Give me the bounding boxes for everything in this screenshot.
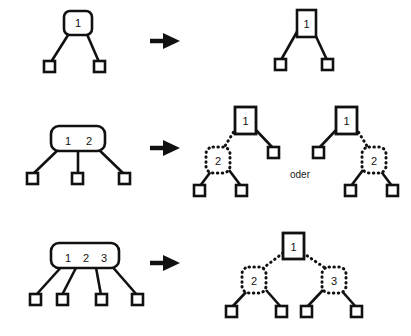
row-3-root-key: 1 bbox=[290, 241, 296, 253]
row-3-left-leaf-2 bbox=[57, 294, 68, 305]
row-2-left-group-node bbox=[51, 126, 105, 151]
row-2-left-tree: 1 2 bbox=[27, 126, 130, 184]
row-3-leaf-1 bbox=[226, 306, 237, 317]
row-2-b-leaf-3 bbox=[387, 185, 398, 196]
row-2-a-leaf-2 bbox=[236, 185, 247, 196]
tree-transformation-diagram: 1 1 1 2 bbox=[0, 0, 411, 336]
row-3-left-key-2: 2 bbox=[83, 252, 89, 264]
row-3-left-key-1: 1 bbox=[65, 252, 71, 264]
row-3-left-leaf-4 bbox=[132, 294, 143, 305]
row-2-a-edge-inner-leaf-2 bbox=[229, 170, 241, 186]
row-2-b-root-key: 1 bbox=[343, 115, 349, 127]
diagram-canvas: 1 1 1 2 bbox=[0, 0, 411, 336]
row-3-left-tree: 1 2 3 bbox=[30, 243, 143, 305]
row-1-left-edge-1 bbox=[51, 32, 70, 62]
row-3-left-key-3: 3 bbox=[101, 252, 107, 264]
row-2-b-inner-key: 2 bbox=[371, 155, 377, 167]
row-3-left-leaf-3 bbox=[96, 294, 107, 305]
row-2-a-leaf-1 bbox=[194, 185, 205, 196]
row-2-arrow-icon bbox=[150, 140, 180, 156]
row-1-arrow-icon bbox=[150, 33, 180, 49]
row-3-inner-left-key: 2 bbox=[251, 275, 257, 287]
row-1-right-root-key: 1 bbox=[303, 18, 309, 30]
row-1-left-key-1: 1 bbox=[75, 17, 81, 29]
row-3-leaf-4 bbox=[351, 306, 362, 317]
row-3-edge-inner-left-leaf-2 bbox=[266, 290, 281, 307]
row-3-right-tree: 1 2 3 bbox=[226, 233, 362, 317]
row-1-right-leaf-1 bbox=[275, 59, 286, 70]
row-2-left-leaf-2 bbox=[72, 173, 83, 184]
row-1-left-tree: 1 bbox=[44, 11, 105, 72]
row-2-left-leaf-3 bbox=[119, 173, 130, 184]
row-2-b-edge-inner-leaf-1 bbox=[351, 170, 363, 186]
row-2-left-leaf-1 bbox=[27, 173, 38, 184]
row-3-leaf-3 bbox=[301, 306, 312, 317]
row-2-left-key-1: 1 bbox=[65, 135, 71, 147]
row-2-right-variant-b: 1 2 bbox=[313, 107, 398, 196]
row-3-left-leaf-1 bbox=[30, 294, 41, 305]
row-3-edge-inner-right-leaf-1 bbox=[307, 290, 323, 307]
row-2-a-leaf-3 bbox=[268, 147, 279, 158]
row-2-left-key-2: 2 bbox=[86, 135, 92, 147]
row-3-inner-right-key: 3 bbox=[331, 275, 337, 287]
variant-separator-label: oder bbox=[290, 169, 311, 180]
row-2-b-leaf-1 bbox=[313, 147, 324, 158]
row-2-b-leaf-2 bbox=[345, 185, 356, 196]
row-3-arrow-icon bbox=[150, 255, 180, 271]
row-3-edge-inner-left-leaf-1 bbox=[232, 290, 248, 307]
row-1-right-edge-1 bbox=[281, 30, 298, 60]
row-1-left-edge-2 bbox=[86, 32, 99, 62]
row-2-a-inner-key: 2 bbox=[215, 155, 221, 167]
row-1-left-leaf-2 bbox=[94, 61, 105, 72]
row-1-right-leaf-2 bbox=[322, 59, 333, 70]
row-2-a-root-key: 1 bbox=[242, 115, 248, 127]
row-1-right-tree: 1 bbox=[275, 10, 333, 70]
row-3-leaf-2 bbox=[276, 306, 287, 317]
row-1-left-leaf-1 bbox=[44, 61, 55, 72]
row-2-right-variant-a: 1 2 bbox=[194, 107, 279, 196]
